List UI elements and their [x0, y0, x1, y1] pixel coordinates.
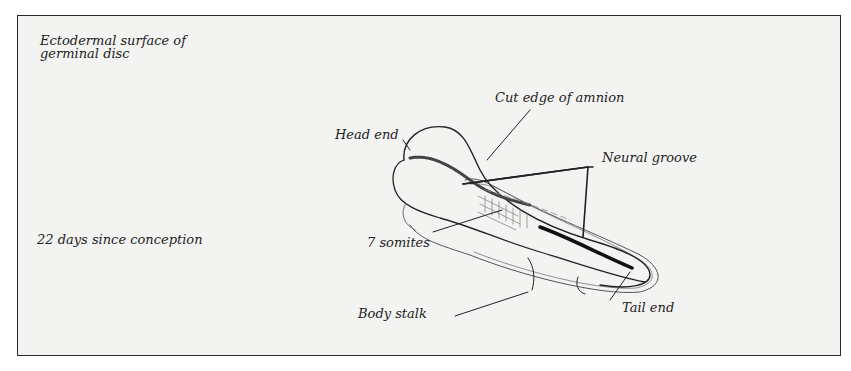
label-head-end: Head end	[335, 128, 399, 142]
caption-top-line2: germinal disc	[40, 47, 130, 61]
label-neural-groove: Neural groove	[602, 151, 697, 165]
label-tail-end: Tail end	[622, 301, 674, 315]
label-body-stalk: Body stalk	[358, 307, 427, 321]
caption-side: 22 days since conception	[37, 233, 203, 247]
label-cut-edge-amnion: Cut edge of amnion	[495, 91, 624, 105]
label-7-somites: 7 somites	[367, 236, 430, 250]
